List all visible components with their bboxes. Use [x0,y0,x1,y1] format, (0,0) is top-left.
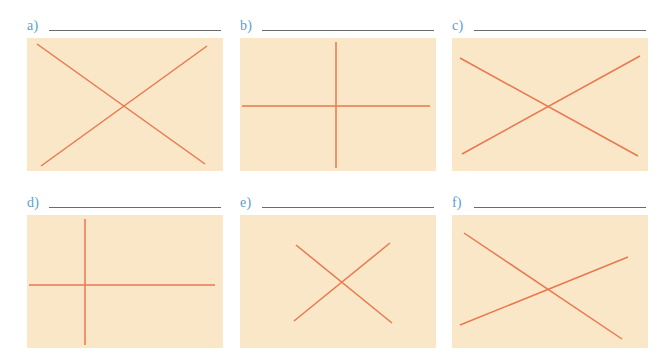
figure-c [452,38,648,171]
figure-a-line-1 [37,44,205,164]
answer-blank-c[interactable] [474,30,646,31]
answer-blank-e[interactable] [262,207,434,208]
figure-canvas-c [452,38,648,171]
figure-b [240,38,436,171]
figure-a [27,38,223,171]
figure-canvas-e [240,215,436,348]
figure-f-line-2 [460,257,628,325]
figure-e [240,215,436,348]
answer-blank-d[interactable] [49,207,221,208]
panel-label-a: a) [27,18,38,34]
figure-c-line-2 [462,56,640,154]
panel-label-c: c) [452,18,463,34]
answer-blank-a[interactable] [49,30,221,31]
figure-f [452,215,648,348]
panel-head-e: e) [240,195,436,217]
panel-head-f: f) [452,195,648,217]
figure-f-line-1 [464,233,622,339]
panel-head-d: d) [27,195,223,217]
figure-c-line-1 [460,58,638,156]
panel-e: e) [240,195,436,348]
answer-blank-b[interactable] [262,30,434,31]
panel-a: a) [27,18,223,171]
worksheet-sheet: a)b)c)d)e)f) [0,0,667,360]
panel-label-f: f) [452,195,462,211]
figure-e-line-1 [296,245,392,323]
panel-label-e: e) [240,195,251,211]
figure-canvas-f [452,215,648,348]
figure-d [27,215,223,348]
answer-blank-f[interactable] [474,207,646,208]
figure-canvas-a [27,38,223,171]
figure-canvas-d [27,215,223,348]
panel-head-b: b) [240,18,436,40]
panel-f: f) [452,195,648,348]
panel-label-d: d) [27,195,39,211]
panel-c: c) [452,18,648,171]
panel-label-b: b) [240,18,252,34]
panel-b: b) [240,18,436,171]
figure-canvas-b [240,38,436,171]
panel-head-a: a) [27,18,223,40]
panel-d: d) [27,195,223,348]
panel-head-c: c) [452,18,648,40]
